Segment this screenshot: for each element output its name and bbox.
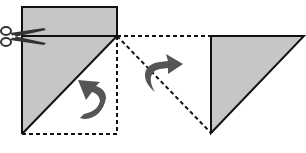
folded-triangle-figure [117,36,304,133]
curved-arrow-right-icon [145,54,183,92]
diagram-canvas [0,0,306,153]
dashed-diagonal-edge [117,36,211,133]
curved-arrow-up-left-icon [78,80,106,119]
result-triangle [211,36,304,133]
folding-diagram [0,0,306,153]
rectangle-figure [22,7,117,134]
